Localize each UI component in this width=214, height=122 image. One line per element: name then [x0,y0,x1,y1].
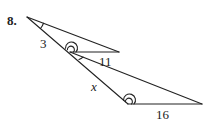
side-label-3: 3 [40,37,47,50]
double-angle-mark-mid-inner-icon [67,46,74,52]
transversal-line [27,17,128,104]
side-label-11: 11 [99,55,112,68]
side-label-16: 16 [156,108,169,121]
large-triangle-top-side [70,52,202,104]
side-label-x: x [91,80,97,93]
angle-mark-mid-icon [79,57,83,59]
angle-mark-apex-icon [41,23,44,28]
double-angle-mark-mid-icon [65,42,77,52]
double-angle-mark-bottom-icon [123,94,135,104]
